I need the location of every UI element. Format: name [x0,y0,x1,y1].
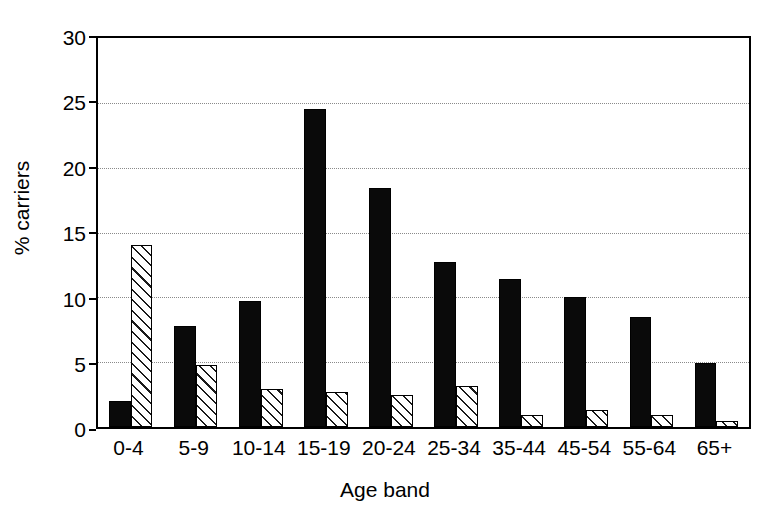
x-tick-label-55-64: 55-64 [617,436,682,460]
gridline-5 [98,362,749,363]
bar-solid-0-4 [109,401,131,427]
bar-hatched-15-19 [326,392,348,427]
y-tick-mark-25 [89,101,96,103]
bar-chart-figure: 30 25 20 15 10 5 0 % carriers 0-45-910-1… [0,0,770,525]
y-tick-mark-30 [89,36,96,38]
bar-solid-65+ [695,363,717,427]
bar-hatched-55-64 [651,415,673,427]
plot-area [96,36,751,429]
x-tick-label-5-9: 5-9 [161,436,226,460]
x-tick-label-45-54: 45-54 [552,436,617,460]
bar-solid-10-14 [239,301,261,427]
x-axis-title: Age band [0,478,770,502]
bar-hatched-20-24 [391,395,413,427]
bar-hatched-45-54 [586,410,608,427]
bar-solid-45-54 [564,297,586,427]
bar-hatched-5-9 [196,365,218,427]
x-tick-label-25-34: 25-34 [422,436,487,460]
y-tick-mark-15 [89,232,96,234]
bar-solid-35-44 [499,279,521,427]
y-axis-title: % carriers [10,108,34,308]
gridline-20 [98,168,749,169]
y-tick-mark-10 [89,298,96,300]
y-tick-mark-0 [89,429,96,431]
x-tick-label-35-44: 35-44 [487,436,552,460]
bar-solid-55-64 [630,317,652,427]
bar-solid-5-9 [174,326,196,427]
bar-solid-15-19 [304,109,326,427]
bar-hatched-25-34 [456,386,478,427]
x-tick-label-65+: 65+ [682,436,747,460]
bar-hatched-35-44 [521,415,543,427]
gridline-10 [98,297,749,298]
x-tick-label-20-24: 20-24 [356,436,421,460]
bar-hatched-65+ [716,421,738,427]
bar-solid-25-34 [434,262,456,427]
y-tick-mark-20 [89,167,96,169]
x-tick-label-10-14: 10-14 [226,436,291,460]
x-tick-label-15-19: 15-19 [291,436,356,460]
y-tick-mark-5 [89,363,96,365]
bar-solid-20-24 [369,188,391,427]
bar-hatched-0-4 [131,245,153,427]
gridline-25 [98,103,749,104]
gridline-15 [98,233,749,234]
bar-hatched-10-14 [261,389,283,427]
x-tick-label-0-4: 0-4 [96,436,161,460]
